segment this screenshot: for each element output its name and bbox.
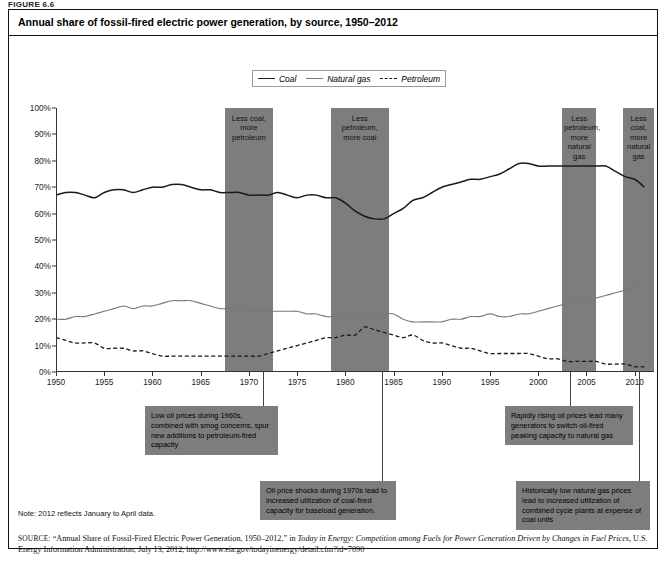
y-tick [52, 292, 56, 293]
title-bar: Annual share of fossil-fired electric po… [9, 10, 657, 36]
legend-item-petroleum: Petroleum [380, 74, 440, 84]
y-tick [52, 240, 56, 241]
y-tick [52, 108, 56, 109]
callout-1970s: Oil price shocks during 1970s lead to in… [260, 481, 396, 520]
y-tick-label: 50% [34, 235, 51, 245]
x-tick [56, 372, 57, 376]
y-axis [56, 108, 57, 372]
source-italic-1: Today in Energy: Competition among Fuels… [298, 534, 516, 543]
x-tick-label: 1980 [336, 377, 354, 387]
y-tick-label: 100% [30, 103, 51, 113]
callout-leader-line [382, 372, 383, 481]
x-tick [249, 372, 250, 376]
legend-label-coal: Coal [279, 74, 296, 84]
series-line-petroleum [56, 327, 644, 367]
x-tick [345, 372, 346, 376]
callout-leader-line [570, 372, 571, 406]
x-tick-label: 1985 [384, 377, 402, 387]
callout-1960s: Low oil prices during 1960s, combined wi… [145, 406, 278, 455]
y-tick-label: 10% [34, 341, 51, 351]
x-tick-label: 2010 [625, 377, 643, 387]
x-tick-label: 1975 [288, 377, 306, 387]
x-tick-label: 2000 [529, 377, 547, 387]
legend-item-coal: Coal [258, 74, 296, 84]
y-tick-label: 20% [34, 314, 51, 324]
figure-label: FIGURE 6.6 [8, 0, 55, 9]
callout-leader-line [263, 372, 264, 406]
x-tick [442, 372, 443, 376]
x-tick [490, 372, 491, 376]
y-tick-label: 30% [34, 288, 51, 298]
callout-leader-line [639, 372, 640, 481]
y-tick [52, 345, 56, 346]
legend-line-petroleum-icon [380, 75, 397, 82]
legend-label-petroleum: Petroleum [401, 74, 440, 84]
y-tick [52, 213, 56, 214]
figure-frame: Annual share of fossil-fired electric po… [8, 9, 658, 549]
legend-item-natural-gas: Natural gas [306, 74, 370, 84]
series-line-coal [56, 163, 644, 219]
x-tick-label: 1995 [481, 377, 499, 387]
x-tick-label: 1970 [240, 377, 258, 387]
series-line-natural-gas [56, 282, 644, 322]
source-text-1: “Annual Share of Fossil-Fired Electric P… [53, 534, 298, 543]
x-tick-label: 1950 [47, 377, 65, 387]
x-tick-label: 2005 [577, 377, 595, 387]
chart-legend: Coal Natural gas Petroleum [252, 70, 446, 87]
legend-line-natural-gas-icon [306, 75, 323, 82]
x-tick [297, 372, 298, 376]
y-tick-label: 80% [34, 156, 51, 166]
x-tick [394, 372, 395, 376]
x-tick [104, 372, 105, 376]
y-tick [52, 319, 56, 320]
figure-source: SOURCE: “Annual Share of Fossil-Fired El… [18, 534, 650, 555]
y-tick-label: 60% [34, 209, 51, 219]
y-tick [52, 187, 56, 188]
legend-label-natural-gas: Natural gas [327, 74, 370, 84]
x-tick-label: 1965 [191, 377, 209, 387]
x-tick-label: 1955 [95, 377, 113, 387]
x-tick [538, 372, 539, 376]
figure-note: Note: 2012 reflects January to April dat… [18, 509, 155, 518]
y-tick-label: 0% [39, 367, 51, 377]
x-tick-label: 1960 [143, 377, 161, 387]
y-tick-label: 90% [34, 129, 51, 139]
y-tick-label: 70% [34, 182, 51, 192]
legend-line-coal-icon [258, 75, 275, 82]
x-tick-label: 1990 [433, 377, 451, 387]
y-tick [52, 160, 56, 161]
x-tick [635, 372, 636, 376]
x-axis [56, 371, 654, 372]
y-tick-label: 40% [34, 261, 51, 271]
callout-2000s: Rapidly rising oil prices lead many gene… [505, 406, 633, 445]
x-tick [152, 372, 153, 376]
callout-2010s: Historically low natural gas prices lead… [516, 481, 650, 530]
y-tick [52, 266, 56, 267]
x-tick [201, 372, 202, 376]
plot-area: Less coal, more petroleumLess petroleum,… [56, 108, 654, 372]
source-italic-2: Driven by Changes in Fuel Prices, [517, 534, 631, 543]
y-tick [52, 134, 56, 135]
source-keyword: SOURCE: [18, 534, 51, 543]
x-tick [586, 372, 587, 376]
series-lines [56, 108, 654, 372]
chart-title: Annual share of fossil-fired electric po… [18, 16, 398, 28]
